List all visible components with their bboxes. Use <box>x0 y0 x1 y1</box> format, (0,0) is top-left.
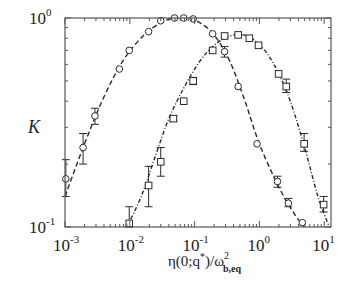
circle-marker <box>235 83 242 90</box>
x-tick-label: 101 <box>312 233 335 255</box>
circle-marker <box>63 176 70 183</box>
plot-frame <box>65 18 331 227</box>
circle-marker <box>285 200 292 207</box>
y-tick-label: 100 <box>29 6 52 28</box>
square-marker <box>320 201 327 208</box>
axes <box>65 18 331 227</box>
circle-marker <box>274 178 281 185</box>
square-marker <box>157 159 164 166</box>
square-marker <box>180 98 187 105</box>
dash-dot-fit-curve <box>127 35 329 227</box>
x-tick-label: 10-2 <box>118 233 144 255</box>
square-marker <box>283 83 290 90</box>
square-marker <box>190 78 197 85</box>
square-marker <box>170 115 177 122</box>
data-markers <box>62 15 328 227</box>
square-marker <box>246 35 253 42</box>
x-axis-label-mid: )/ω <box>205 253 224 270</box>
x-axis-label-sub: b,eq <box>223 263 242 274</box>
x-axis-label: η(0;q*)/ω2b,eq <box>168 250 242 274</box>
fit-curves <box>65 17 329 227</box>
x-tick-label: 100 <box>247 233 270 255</box>
circle-marker <box>126 47 133 54</box>
dashed-fit-curve <box>65 17 305 227</box>
y-axis-label: K <box>27 117 41 137</box>
circle-marker <box>190 16 197 23</box>
square-marker <box>209 47 216 54</box>
circle-marker <box>209 31 216 38</box>
chart-figure: 10-310-210-1100101 10-1100 K η(0;q*)/ω2b… <box>0 0 347 293</box>
square-marker <box>235 32 242 39</box>
square-marker <box>145 182 152 189</box>
circle-marker <box>80 144 87 151</box>
circle-marker <box>254 141 261 148</box>
x-tick-label: 10-3 <box>53 233 80 255</box>
square-marker <box>221 33 228 40</box>
y-tick-label: 10-1 <box>29 215 55 237</box>
x-axis-label-main: η(0;q <box>168 253 201 270</box>
square-marker <box>301 141 308 148</box>
circle-marker <box>145 28 152 35</box>
circle-marker <box>92 113 99 120</box>
circle-marker <box>221 48 228 55</box>
square-marker <box>275 71 282 78</box>
x-axis-label-sup: 2 <box>224 250 229 261</box>
square-marker <box>255 42 262 49</box>
x-tick-labels: 10-310-210-1100101 <box>53 233 335 255</box>
circle-marker <box>116 66 123 73</box>
